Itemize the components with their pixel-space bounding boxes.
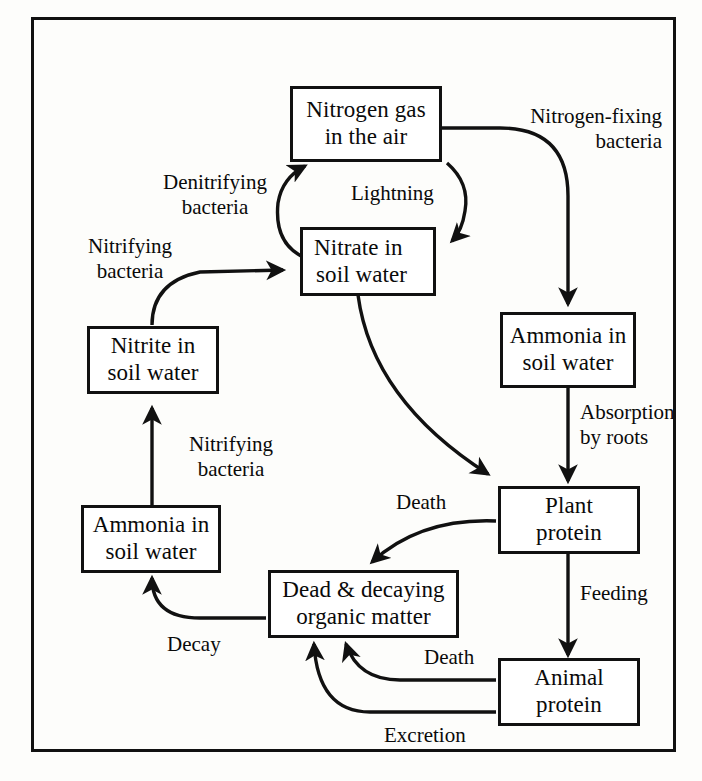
edge-label-line1: Nitrifying	[88, 234, 172, 258]
node-label-line2: soil water	[107, 360, 198, 387]
node-label-line2: soil water	[522, 350, 613, 377]
edge-label-denitrifying: Denitrifying bacteria	[142, 170, 288, 220]
edge-label-lightning: Lightning	[351, 181, 434, 206]
node-label-line1: Nitrite in	[111, 333, 196, 360]
edge-label-excretion: Excretion	[384, 723, 466, 748]
node-animal-protein[interactable]: Animal protein	[498, 658, 640, 726]
edge-label-nitrogen-fixing: Nitrogen-fixing bacteria	[466, 104, 662, 154]
node-plant-protein[interactable]: Plant protein	[498, 486, 640, 554]
arrow-lightning	[447, 163, 466, 241]
node-label-line1: Plant	[545, 493, 593, 520]
arrow-death-plant	[372, 521, 496, 562]
node-label-line1: Animal	[534, 665, 604, 692]
node-nitrogen-gas[interactable]: Nitrogen gas in the air	[290, 86, 442, 162]
node-label-line2: soil water	[105, 539, 196, 566]
node-nitrite[interactable]: Nitrite in soil water	[87, 326, 219, 394]
edge-label-feeding: Feeding	[580, 581, 648, 606]
arrow-decay	[152, 578, 266, 618]
edge-label-line1: Decay	[167, 632, 221, 656]
arrow-nitrate-to-plant	[358, 295, 488, 474]
edge-label-line1: Death	[424, 645, 474, 669]
nitrogen-cycle-diagram: Nitrogen gas in the air Nitrate in soil …	[0, 0, 702, 781]
edge-label-line2: bacteria	[182, 195, 248, 219]
edge-label-line1: Nitrifying	[189, 432, 273, 456]
edge-label-line1: Death	[396, 490, 446, 514]
edge-label-decay: Decay	[167, 632, 221, 657]
node-ammonia-upper[interactable]: Ammonia in soil water	[500, 312, 636, 388]
edge-label-death-animal: Death	[424, 645, 474, 670]
node-label-line1: Dead & decaying	[282, 577, 444, 604]
edge-label-line2: bacteria	[596, 129, 662, 153]
edge-label-death-plant: Death	[396, 490, 446, 515]
node-label-line2: in the air	[325, 124, 408, 151]
node-label-line1: Ammonia in	[510, 323, 627, 350]
edge-label-line1: Absorption	[580, 400, 675, 424]
node-nitrate[interactable]: Nitrate in soil water	[300, 227, 436, 296]
edge-label-line2: bacteria	[97, 259, 163, 283]
edge-label-line1: Feeding	[580, 581, 648, 605]
edge-label-line1: Nitrogen-fixing	[530, 104, 662, 128]
node-ammonia-lower[interactable]: Ammonia in soil water	[81, 505, 221, 573]
node-label-line2: organic matter	[296, 604, 430, 631]
node-label-line2: protein	[536, 692, 602, 719]
node-label-line2: protein	[536, 520, 602, 547]
node-dead-matter[interactable]: Dead & decaying organic matter	[268, 570, 459, 638]
edge-label-line2: by roots	[580, 425, 648, 449]
node-label-line2: soil water	[314, 262, 407, 289]
arrow-nitrogen-fixing	[442, 128, 568, 304]
edge-label-line1: Lightning	[351, 181, 434, 205]
node-label-line1: Ammonia in	[93, 512, 210, 539]
edge-label-line2: bacteria	[198, 457, 264, 481]
node-label-line1: Nitrogen gas	[306, 97, 425, 124]
edge-label-line1: Denitrifying	[163, 170, 267, 194]
edge-label-absorption: Absorption by roots	[580, 400, 675, 450]
edge-label-nitrifying-lower: Nitrifying bacteria	[163, 432, 299, 482]
edge-label-line1: Excretion	[384, 723, 466, 747]
node-label-line1: Nitrate in	[314, 235, 403, 262]
edge-label-nitrifying-upper: Nitrifying bacteria	[62, 234, 198, 284]
